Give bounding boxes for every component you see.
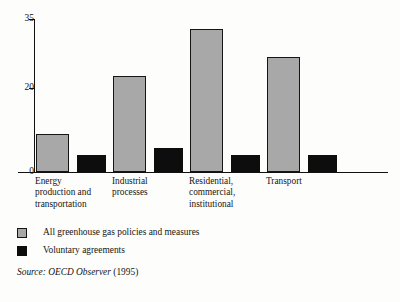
x-category-line: Transport: [266, 176, 338, 187]
source-prefix: Source:: [17, 267, 46, 277]
x-category-line: processes: [112, 187, 184, 198]
bar-series0-cat1: [113, 76, 146, 172]
chart-legend: All greenhouse gas policies and measures…: [17, 226, 387, 262]
x-category-line: Energy: [35, 176, 107, 187]
x-category-label-0: Energy production and transportation: [35, 176, 107, 210]
source-year: (1995): [113, 267, 138, 277]
x-category-line: Industrial: [112, 176, 184, 187]
bar-series0-cat3: [267, 57, 300, 172]
legend-label-all-policies: All greenhouse gas policies and measures: [43, 226, 199, 239]
x-category-label-3: Transport: [266, 176, 338, 187]
legend-label-voluntary-agreements: Voluntary agreements: [43, 244, 125, 257]
x-axis-category-labels: Energy production and transportation Ind…: [0, 176, 400, 224]
bar-series1-cat0: [77, 155, 106, 172]
legend-swatch-icon-black: [17, 246, 27, 256]
x-category-label-1: Industrial processes: [112, 176, 184, 199]
x-category-line: Residential,: [189, 176, 263, 187]
x-category-line: institutional: [189, 199, 263, 210]
bar-group-container: [0, 0, 400, 172]
x-category-line: production and: [35, 187, 107, 198]
x-axis-line: [18, 172, 388, 173]
source-note: Source: OECD Observer (1995): [17, 266, 138, 278]
bar-series0-cat0: [36, 134, 69, 172]
x-category-line: commercial,: [189, 187, 263, 198]
x-category-label-2: Residential, commercial, institutional: [189, 176, 263, 210]
bar-series1-cat3: [308, 155, 337, 172]
legend-item-all-policies: All greenhouse gas policies and measures: [17, 226, 387, 244]
legend-swatch-icon-gray: [17, 228, 27, 238]
bar-series1-cat2: [231, 155, 260, 172]
bar-series0-cat2: [190, 29, 223, 172]
bar-series1-cat1: [154, 148, 183, 172]
x-category-line: transportation: [35, 199, 107, 210]
chart-figure: 35 20 0 Energy prod: [0, 0, 400, 302]
legend-item-voluntary-agreements: Voluntary agreements: [17, 244, 387, 262]
source-publication: OECD Observer: [48, 267, 111, 277]
